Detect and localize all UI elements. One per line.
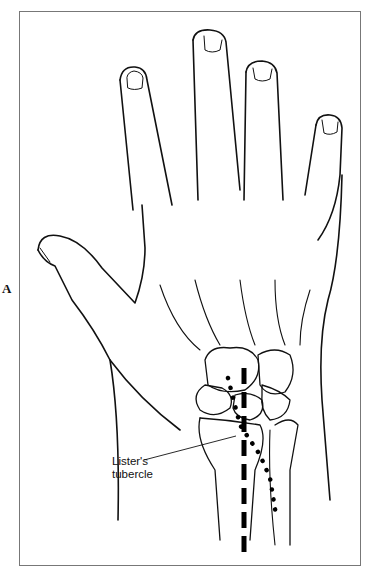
hand-illustration — [0, 0, 376, 575]
carpal-bones — [205, 348, 259, 392]
callout-line1: Lister's — [112, 455, 153, 468]
ring-finger — [246, 61, 283, 200]
ulna — [275, 420, 298, 545]
dotted-line-marker — [228, 378, 276, 515]
radius — [200, 418, 263, 540]
callout-leader — [144, 436, 236, 460]
little-finger — [316, 115, 342, 240]
middle-finger — [193, 30, 240, 190]
callout-listers-tubercle: Lister's tubercle — [112, 455, 153, 481]
callout-line2: tubercle — [112, 468, 153, 481]
thumb — [38, 205, 145, 303]
